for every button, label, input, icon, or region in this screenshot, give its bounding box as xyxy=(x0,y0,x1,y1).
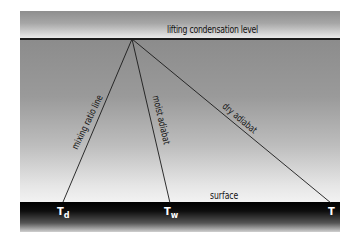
temperature-symbol: T xyxy=(328,205,335,218)
dewpoint-symbol: T xyxy=(57,205,64,218)
wetbulb-symbol: T xyxy=(164,205,171,218)
wetbulb-subscript: w xyxy=(171,210,178,220)
mixing-ratio-line xyxy=(63,39,132,202)
wetbulb-label: Tw xyxy=(164,205,178,220)
dewpoint-label: Td xyxy=(57,205,70,220)
temperature-label: T xyxy=(328,205,335,218)
dewpoint-subscript: d xyxy=(64,210,70,220)
